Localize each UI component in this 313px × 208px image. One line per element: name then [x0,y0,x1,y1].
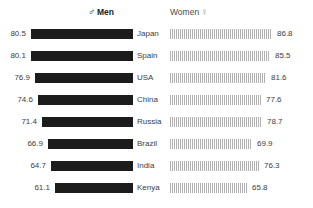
men-bar [51,161,133,171]
men-bar-cell: 76.9 [0,68,133,90]
men-value-label: 76.9 [14,73,30,83]
chart-legend-header: ♂ Men Women ♀ [0,4,313,20]
men-bar [31,51,133,61]
women-bar-cell: 76.3 [170,156,313,178]
legend-women: Women ♀ [170,6,208,18]
men-bar-cell: 80.1 [0,46,133,68]
men-bar-cell: 64.7 [0,156,133,178]
men-bar-cell: 80.5 [0,24,133,46]
men-bar [48,139,133,149]
men-value-label: 61.1 [34,183,50,193]
women-bar [170,29,272,39]
men-value-label: 80.5 [10,29,26,39]
diverging-bar-chart: ♂ Men Women ♀ 80.5Japan86.880.1Spain85.5… [0,0,313,208]
women-bar [170,139,252,149]
female-gender-icon: ♀ [201,7,209,17]
country-label: Brazil [137,139,169,149]
men-value-label: 66.9 [27,139,43,149]
country-label: Russia [137,117,169,127]
country-label: Spain [137,51,169,61]
women-value-label: 77.6 [266,95,282,105]
women-value-label: 86.8 [277,29,293,39]
chart-row: 80.5Japan86.8 [0,24,313,46]
women-bar [170,73,266,83]
men-value-label: 71.4 [21,117,37,127]
men-bar [55,183,133,193]
men-value-label: 80.1 [10,51,26,61]
women-bar [170,95,261,105]
chart-row: 71.4Russia78.7 [0,112,313,134]
women-bar-cell: 65.8 [170,178,313,200]
men-bar-cell: 66.9 [0,134,133,156]
women-bar [170,51,270,61]
women-bar [170,183,247,193]
women-bar-cell: 69.9 [170,134,313,156]
chart-row: 61.1Kenya65.8 [0,178,313,200]
male-gender-icon: ♂ [88,7,96,17]
chart-row: 66.9Brazil69.9 [0,134,313,156]
women-bar-cell: 77.6 [170,90,313,112]
men-bar-cell: 61.1 [0,178,133,200]
legend-men-label: Men [97,6,114,18]
women-bar-cell: 81.6 [170,68,313,90]
women-value-label: 76.3 [264,161,280,171]
women-value-label: 85.5 [275,51,291,61]
chart-row: 76.9USA81.6 [0,68,313,90]
chart-row: 74.6China77.6 [0,90,313,112]
chart-row: 80.1Spain85.5 [0,46,313,68]
legend-women-label: Women [170,6,199,18]
country-label: India [137,161,169,171]
women-bar [170,161,259,171]
men-bar [38,95,133,105]
country-label: USA [137,73,169,83]
country-label: China [137,95,169,105]
men-bar [42,117,133,127]
women-bar-cell: 85.5 [170,46,313,68]
women-bar-cell: 86.8 [170,24,313,46]
women-bar [170,117,262,127]
men-value-label: 64.7 [30,161,46,171]
women-value-label: 69.9 [257,139,273,149]
men-bar [31,29,133,39]
women-value-label: 81.6 [271,73,287,83]
men-bar-cell: 71.4 [0,112,133,134]
men-bar [35,73,133,83]
women-value-label: 65.8 [252,183,268,193]
men-bar-cell: 74.6 [0,90,133,112]
chart-row: 64.7India76.3 [0,156,313,178]
legend-men: ♂ Men [88,6,114,18]
chart-rows: 80.5Japan86.880.1Spain85.576.9USA81.674.… [0,24,313,200]
women-bar-cell: 78.7 [170,112,313,134]
men-value-label: 74.6 [17,95,33,105]
country-label: Japan [137,29,169,39]
country-label: Kenya [137,183,169,193]
women-value-label: 78.7 [267,117,283,127]
